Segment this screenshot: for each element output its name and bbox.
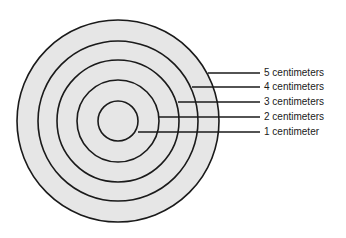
label-3cm: 3 centimeters (264, 96, 324, 108)
label-2cm: 2 centimeters (264, 111, 324, 123)
label-1cm: 1 centimeter (264, 126, 319, 138)
label-4cm: 4 centimeters (264, 81, 324, 93)
ring-5cm (17, 20, 219, 222)
label-5cm: 5 centimeters (264, 67, 324, 79)
